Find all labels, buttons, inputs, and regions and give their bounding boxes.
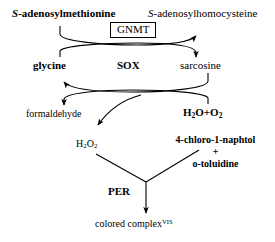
node-sarcosine: sarcosine xyxy=(180,60,221,71)
h2o-o2-o: O+O xyxy=(195,106,218,118)
h2o-o2-h: H xyxy=(183,106,192,118)
node-hydrogen-peroxide: H2O2 xyxy=(76,139,97,149)
node-chromogen-reagents: 4-chloro-1-naphtol + o-toluidine xyxy=(163,134,268,169)
node-colored-complex: colored complexVIS xyxy=(95,219,173,229)
chromogen-plus-sign: + xyxy=(163,146,268,158)
chromogen-toluidine: o-toluidine xyxy=(163,158,268,170)
sam-rest: -adenosylmethionine xyxy=(18,7,115,19)
node-glycine: glycine xyxy=(33,60,66,71)
chromogen-naphtol: 4-chloro-1-naphtol xyxy=(163,134,268,146)
h2o-o2-sub2: 2 xyxy=(219,111,223,120)
sah-rest: -adenosylhomocysteine xyxy=(154,7,258,19)
h2o2-sub2: 2 xyxy=(94,142,97,149)
line-peroxide-to-junction xyxy=(96,154,146,182)
node-s-adenosylhomocysteine: S-adenosylhomocysteine xyxy=(148,8,257,19)
enzyme-box-gnmt: GNMT xyxy=(110,22,156,38)
reaction-pathway-diagram: S-adenosylmethionine S-adenosylhomocyste… xyxy=(0,0,275,242)
product-superscript-vis: VIS xyxy=(162,218,173,225)
gnmt-label: GNMT xyxy=(117,23,149,35)
node-s-adenosylmethionine: S-adenosylmethionine xyxy=(12,8,115,19)
product-text: colored complex xyxy=(95,218,162,229)
arrow-sarcosine-to-glycine xyxy=(64,73,208,92)
node-water-oxygen: H2O+O2 xyxy=(183,107,222,118)
node-formaldehyde: formaldehyde xyxy=(26,109,82,119)
h2o2-o: O xyxy=(87,138,94,149)
enzyme-label-per: PER xyxy=(108,186,130,197)
enzyme-label-sox: SOX xyxy=(117,60,140,71)
arrow-to-hydrogen-peroxide xyxy=(98,95,141,125)
